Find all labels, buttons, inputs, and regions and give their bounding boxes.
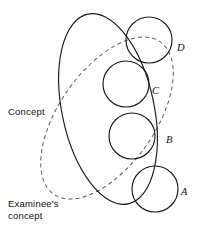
circle-b-label: B bbox=[166, 134, 172, 145]
circle-b bbox=[109, 113, 155, 159]
concept-diagram: Concept Examinee's concept D C B A bbox=[0, 0, 203, 243]
circle-a bbox=[132, 166, 178, 212]
circle-a-label: A bbox=[181, 186, 187, 197]
circle-d bbox=[126, 17, 172, 63]
concept-ellipse bbox=[43, 5, 173, 214]
examinee-concept-label: Examinee's concept bbox=[8, 198, 59, 222]
circle-d-label: D bbox=[177, 42, 185, 53]
circle-c bbox=[103, 61, 149, 107]
circle-c-label: C bbox=[152, 85, 159, 96]
concept-label: Concept bbox=[8, 106, 45, 118]
